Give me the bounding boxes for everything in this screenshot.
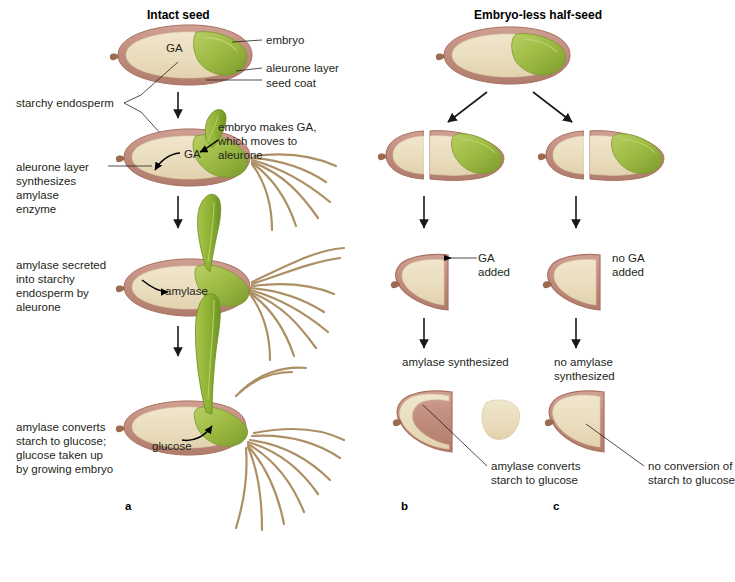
panel-letter-b: b <box>401 500 408 512</box>
branch-arrow-left <box>448 92 487 122</box>
panel-letter-c: c <box>553 500 559 512</box>
label-glucose-stage4: glucose <box>152 440 192 452</box>
label-no-ga-added: no GA added <box>612 251 645 279</box>
half-seed-c-no-ga <box>543 254 600 310</box>
half-seed-c-result <box>545 391 604 452</box>
branch-arrow-right <box>533 92 572 122</box>
label-seed-coat: seed coat <box>266 76 316 90</box>
half-seed-b-ga-added <box>391 254 448 310</box>
label-amylase-synthesized: amylase synthesized <box>402 355 509 369</box>
label-amylase-converts-left: amylase converts starch to glucose; gluc… <box>16 420 113 476</box>
label-embryo-makes-ga: embryo makes GA, which moves to aleurone <box>218 120 316 162</box>
seed-stage-3 <box>116 194 344 360</box>
label-aleurone-layer: aleurone layer <box>266 61 339 75</box>
cut-seed-c <box>538 128 664 182</box>
label-ga-stage1: GA <box>166 42 183 54</box>
half-seed-top <box>436 27 570 84</box>
label-amylase-stage3: amylase <box>165 285 208 297</box>
panel-letter-a: a <box>125 500 131 512</box>
label-embryo: embryo <box>266 33 304 47</box>
label-amylase-converts-b: amylase converts starch to glucose <box>491 459 580 487</box>
label-starchy-endosperm: starchy endosperm <box>16 96 114 110</box>
label-amylase-secreted: amylase secreted into starchy endosperm … <box>16 258 106 314</box>
label-ga-stage2: GA <box>184 148 201 160</box>
label-no-amylase-synthesized: no amylase synthesized <box>554 355 615 383</box>
label-ga-added: GA added <box>478 251 510 279</box>
seed-stage-4 <box>116 294 344 530</box>
label-no-conversion-c: no conversion of starch to glucose <box>648 459 735 487</box>
cut-seed-b <box>378 128 504 182</box>
half-seed-b-result <box>393 391 520 452</box>
seed-stage-1 <box>110 25 252 85</box>
label-aleurone-synthesizes: aleurone layer synthesizes amylase enzym… <box>16 160 89 216</box>
